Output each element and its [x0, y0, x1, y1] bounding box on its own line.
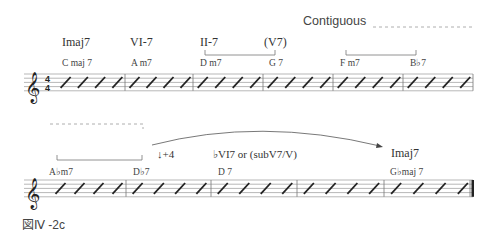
chord-db7: D♭7: [133, 167, 150, 177]
treble-clef-icon: 𝄞: [25, 72, 40, 104]
chord-fm7: F m7: [340, 58, 360, 68]
contiguous-label: Contiguous: [303, 14, 366, 28]
roman-ii-7: II-7: [200, 35, 218, 49]
roman-imaj7-2: Imaj7: [391, 146, 419, 160]
chord-gbmaj7: G♭maj 7: [390, 167, 423, 177]
chord-cmaj7: C maj 7: [62, 58, 92, 68]
roman-v7: (V7): [264, 35, 287, 49]
figure-label: 図Ⅳ -2c: [22, 218, 65, 232]
ii-v-bracket-2: [346, 50, 416, 55]
ii-v-bracket: [205, 50, 275, 55]
staff-1: 𝄞44: [24, 72, 473, 104]
chord-abm7: A♭m7: [49, 167, 73, 177]
chord-g7: G 7: [269, 58, 283, 68]
treble-clef-icon: 𝄞: [25, 178, 40, 210]
time-signature-bottom: 4: [45, 83, 50, 93]
staff-2: 𝄞: [24, 178, 474, 210]
roman-vi-7: VI-7: [130, 35, 153, 49]
chord-d7: D 7: [218, 167, 232, 177]
interval-label: ↓+4: [157, 148, 175, 160]
resolution-arrow-curve: [152, 131, 380, 146]
chord-am7: A m7: [131, 58, 152, 68]
chord-dm7: D m7: [200, 58, 222, 68]
roman-bvi7-subv7: ♭VI7 or (subV7/V): [213, 148, 297, 161]
chord-bb7: B♭7: [410, 58, 426, 68]
roman-imaj7: Imaj7: [62, 35, 90, 49]
ii-v-bracket-3: [57, 155, 142, 160]
chord-chart: Contiguous Imaj7 VI-7 II-7 (V7) C maj 7 …: [0, 0, 499, 235]
contiguous-dashed-continuation: [50, 124, 143, 129]
final-barline: [472, 180, 475, 197]
arrow-head-icon: [376, 143, 383, 148]
